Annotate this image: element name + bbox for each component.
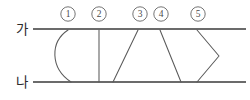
- connector-5-chevron: [197, 30, 219, 82]
- marker-label-4: 4: [159, 9, 164, 19]
- connector-4-diagonal: [160, 30, 181, 82]
- connector-1-curve: [55, 30, 71, 82]
- connector-lines-group: [55, 30, 219, 82]
- diagram-canvas: 12345 가나: [0, 0, 250, 100]
- marker-circles-group: 12345: [61, 7, 205, 21]
- axis-lines-group: [33, 29, 246, 82]
- bottom-axis-label: 나: [16, 75, 28, 90]
- diagram-figure: 12345 가나: [0, 0, 250, 100]
- top-axis-label: 가: [16, 22, 28, 37]
- connector-3-diagonal: [113, 30, 138, 82]
- marker-label-5: 5: [196, 9, 201, 19]
- axis-labels-group: 가나: [16, 22, 28, 90]
- marker-label-2: 2: [97, 9, 102, 19]
- marker-label-3: 3: [138, 9, 143, 19]
- marker-label-1: 1: [66, 9, 71, 19]
